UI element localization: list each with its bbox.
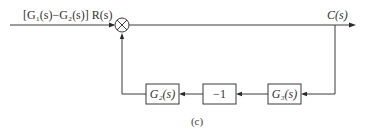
arrowhead-into-g3 bbox=[301, 92, 307, 96]
input-label: [G₁(s)−G₂(s)] R(s) bbox=[23, 8, 112, 22]
output-arrowhead bbox=[349, 23, 356, 28]
summing-junction bbox=[115, 18, 129, 32]
block-neg1-label: −1 bbox=[213, 87, 226, 101]
arrowhead-into-junction bbox=[120, 33, 124, 39]
arrowhead-into-g2 bbox=[179, 92, 185, 96]
block-g2-label: G₂(s) bbox=[150, 87, 176, 101]
block-g3-label: G₃(s) bbox=[272, 87, 298, 101]
block-diagram: [G₁(s)−G₂(s)] R(s) C(s) G₃(s) −1 G₂(s) (… bbox=[0, 0, 365, 136]
block-neg1: −1 bbox=[203, 84, 236, 104]
block-g2: G₂(s) bbox=[146, 84, 179, 104]
figure-caption: (c) bbox=[191, 115, 204, 128]
arrowhead-into-neg1 bbox=[236, 92, 242, 96]
input-arrowhead bbox=[109, 23, 115, 28]
output-label: C(s) bbox=[327, 8, 348, 22]
block-g3: G₃(s) bbox=[268, 84, 301, 104]
